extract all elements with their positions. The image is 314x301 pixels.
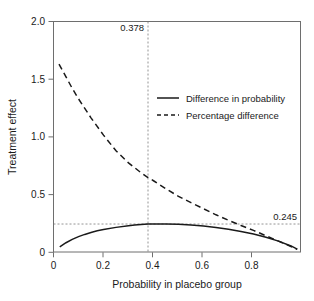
x-tick-label-0.2: 0.2 <box>96 260 110 271</box>
chart-legend: Difference in probability Percentage dif… <box>157 93 285 121</box>
series-difference-in-probability <box>60 224 298 249</box>
hline-annotation-label: 0.245 <box>273 211 297 222</box>
x-tick-label-0.4: 0.4 <box>146 260 160 271</box>
x-axis-ticks <box>54 252 252 257</box>
y-axis-ticks <box>49 22 54 253</box>
x-tick-label-0: 0 <box>51 260 57 271</box>
vline-annotation-label: 0.378 <box>120 22 144 33</box>
x-tick-label-0.6: 0.6 <box>195 260 209 271</box>
chart-figure: 2.0 1.5 1.0 0.5 0 0 0.2 0.4 0.6 0.8 Prob… <box>0 0 314 301</box>
treatment-effect-line-chart: 2.0 1.5 1.0 0.5 0 0 0.2 0.4 0.6 0.8 Prob… <box>0 0 314 301</box>
y-tick-label-2.0: 2.0 <box>31 16 45 27</box>
x-tick-label-0.8: 0.8 <box>245 260 259 271</box>
y-tick-label-0.5: 0.5 <box>31 189 45 200</box>
y-tick-label-1.5: 1.5 <box>31 74 45 85</box>
legend-label-difference-in-probability: Difference in probability <box>186 93 285 104</box>
y-tick-label-0: 0 <box>39 247 45 258</box>
x-axis-title: Probability in placebo group <box>112 278 242 290</box>
plot-frame <box>54 22 301 253</box>
y-axis-title: Treatment effect <box>6 99 18 175</box>
y-tick-label-1.0: 1.0 <box>31 131 45 142</box>
legend-label-percentage-difference: Percentage difference <box>186 110 279 121</box>
